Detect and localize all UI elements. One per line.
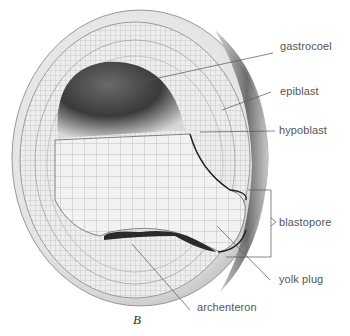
gastrula-illustration: gastrocoel epiblast hypoblast blastopore… bbox=[0, 0, 350, 336]
label-epiblast: epiblast bbox=[280, 85, 319, 97]
label-blastopore: blastopore bbox=[279, 216, 331, 228]
label-hypoblast: hypoblast bbox=[279, 124, 327, 136]
label-archenteron: archenteron bbox=[197, 301, 257, 313]
label-gastrocoel: gastrocoel bbox=[280, 40, 332, 52]
figure-caption: B bbox=[133, 312, 141, 328]
label-yolk-plug: yolk plug bbox=[279, 273, 323, 285]
